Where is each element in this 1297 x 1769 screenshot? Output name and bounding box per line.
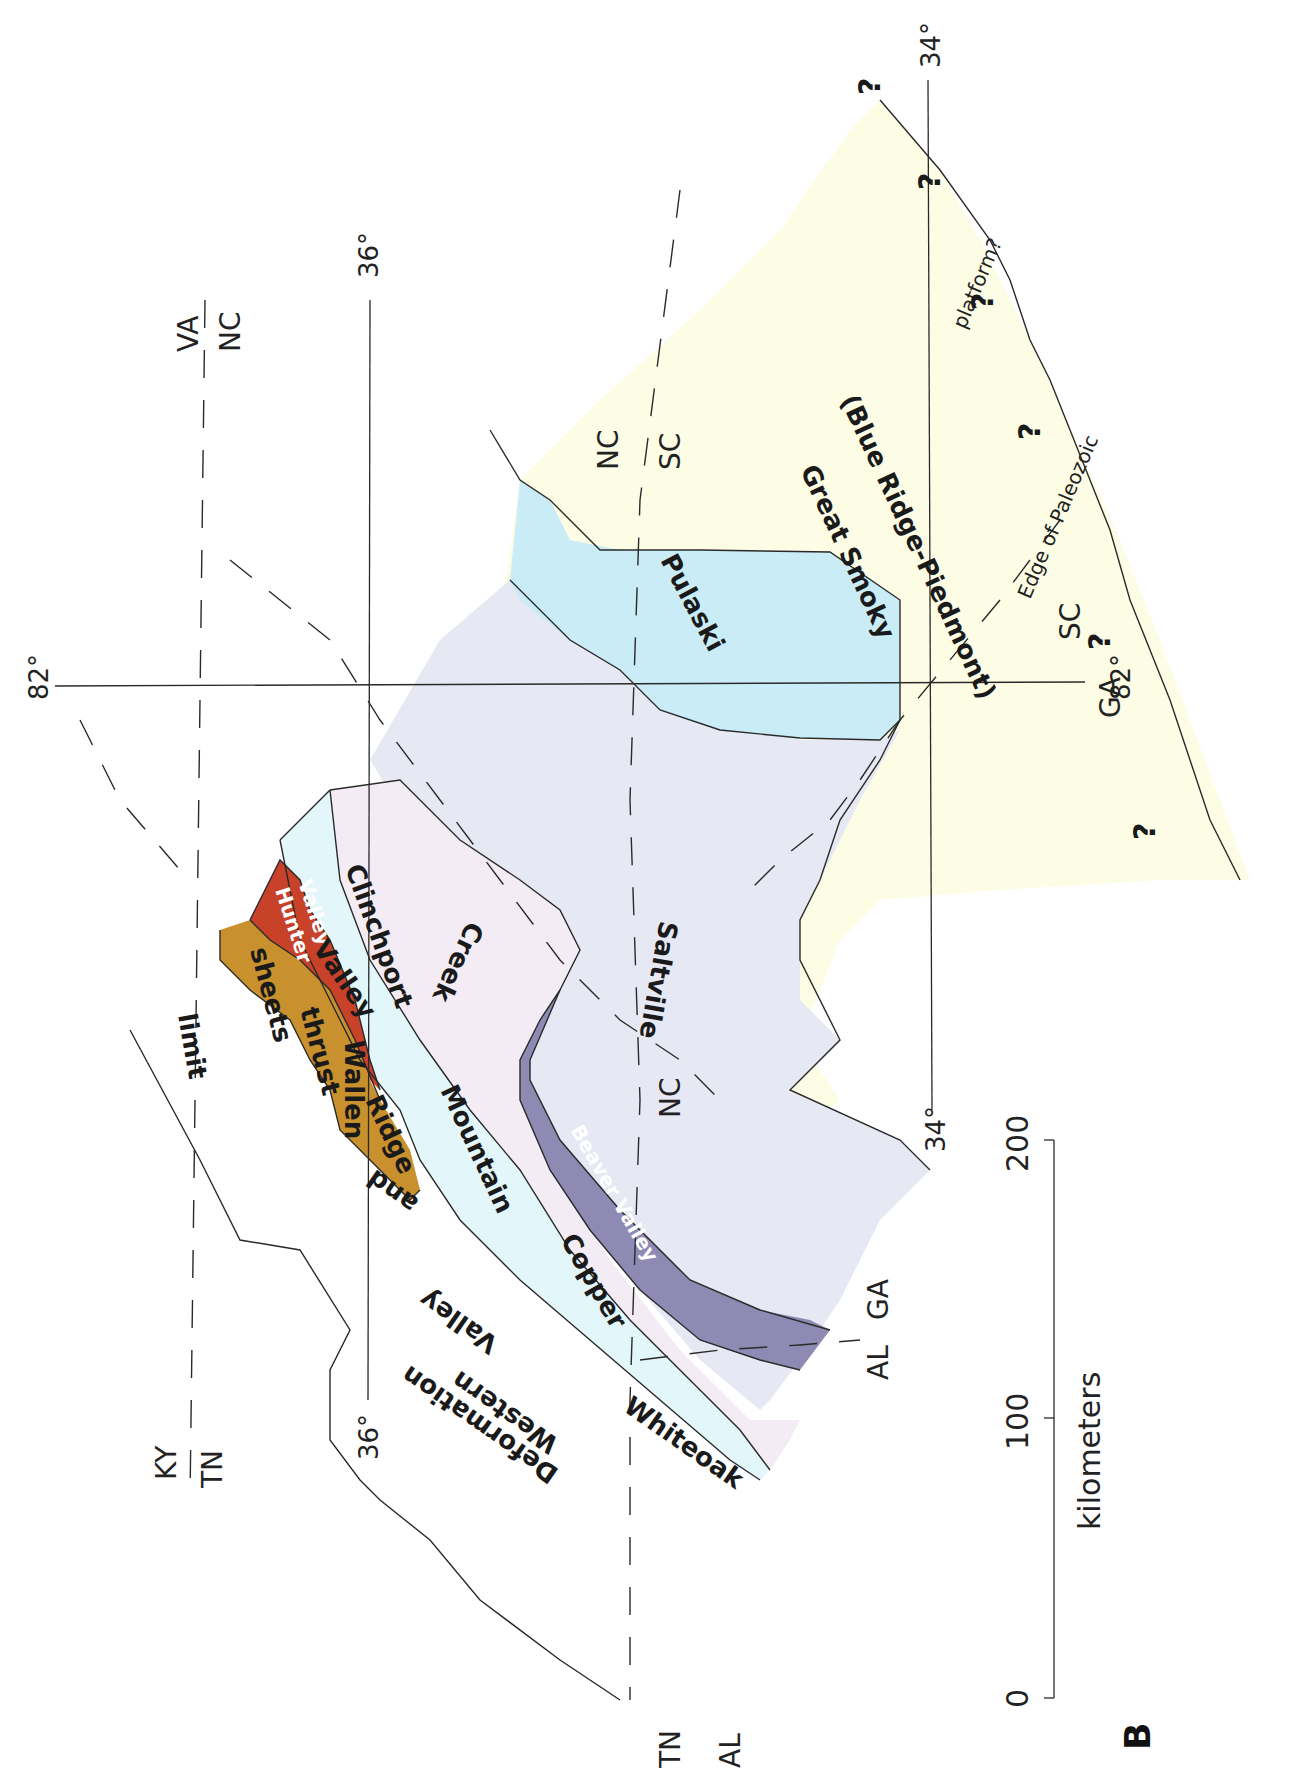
question-mark-6: ?	[1127, 823, 1162, 840]
state-label-ga-south: GA	[1094, 677, 1127, 718]
question-mark-5: ?	[1082, 633, 1117, 650]
state-label-nc-mid: NC	[654, 1078, 687, 1119]
state-label-tn-corner: TN	[654, 1730, 687, 1769]
state-label-ky: KY	[150, 1445, 183, 1480]
lat34-top-label: 34°	[916, 22, 946, 68]
ky-tn-va-nc-boundary	[190, 300, 205, 1500]
valley-label: Valley	[414, 1284, 504, 1359]
state-label-nc-east: NC	[592, 430, 625, 471]
thrust-sheet-polygons	[220, 100, 1250, 1480]
lat34-bottom-label: 34°	[921, 1106, 951, 1152]
question-mark-2: ?	[912, 173, 947, 190]
lat36-bottom-label: 36°	[354, 1414, 384, 1460]
state-label-nc-top: NC	[214, 312, 247, 353]
question-mark-4: ?	[1012, 423, 1047, 440]
ga-nc-boundary	[80, 720, 180, 870]
lat36-top-label: 36°	[354, 232, 384, 278]
state-label-sc-east: SC	[654, 433, 687, 470]
scale-unit-label: kilometers	[1072, 1372, 1107, 1530]
scale-label-0: 0	[1000, 1689, 1035, 1708]
state-label-tn-top: TN	[196, 1450, 229, 1489]
state-label-al-bottom: AL	[862, 1345, 895, 1380]
scale-label-100: 100	[1000, 1393, 1035, 1450]
question-mark-3: ?	[965, 293, 1000, 310]
scale-bar: 200 100 0 kilometers	[1000, 1115, 1107, 1708]
panel-label: B	[1117, 1723, 1158, 1750]
state-label-al-corner: AL	[714, 1733, 747, 1768]
state-label-ga-bottom: GA	[862, 1279, 895, 1320]
lon82-left-label: 82°	[24, 654, 54, 700]
question-mark-1: ?	[852, 78, 887, 95]
thrust-sheet-map: 36° 36° 34° 34° 82° 82° VA NC KY TN NC S…	[0, 0, 1297, 1769]
scale-label-200: 200	[1000, 1115, 1035, 1172]
state-label-va: VA	[172, 315, 205, 352]
limit-label: limit	[172, 1011, 213, 1081]
